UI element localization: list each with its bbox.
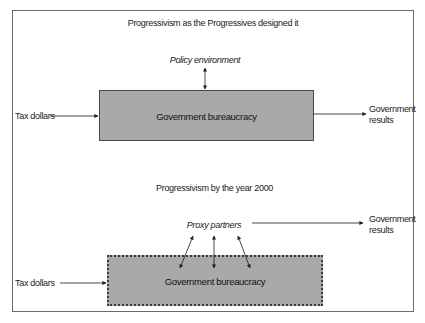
top-tax-dollars-label: Tax dollars — [15, 111, 55, 121]
bottom-box-label: Government bureaucracy — [109, 275, 321, 286]
top-government-results-line1: Government — [369, 104, 416, 114]
top-government-results-line2: results — [369, 115, 393, 125]
bottom-tax-dollars-label: Tax dollars — [15, 278, 55, 288]
top-box-label: Government bureaucracy — [100, 110, 313, 121]
bottom-section-title: Progressivism by the year 2000 — [156, 183, 273, 193]
top-government-bureaucracy-box: Government bureaucracy — [99, 90, 314, 141]
policy-environment-label: Policy environment — [170, 55, 241, 65]
bottom-government-results-line1: Government — [369, 214, 416, 224]
bottom-government-bureaucracy-box: Government bureaucracy — [107, 255, 323, 306]
proxy-partners-label: Proxy partners — [187, 220, 241, 230]
top-section-title: Progressivism as the Progressives design… — [128, 18, 299, 28]
bottom-government-results-line2: results — [369, 225, 393, 235]
